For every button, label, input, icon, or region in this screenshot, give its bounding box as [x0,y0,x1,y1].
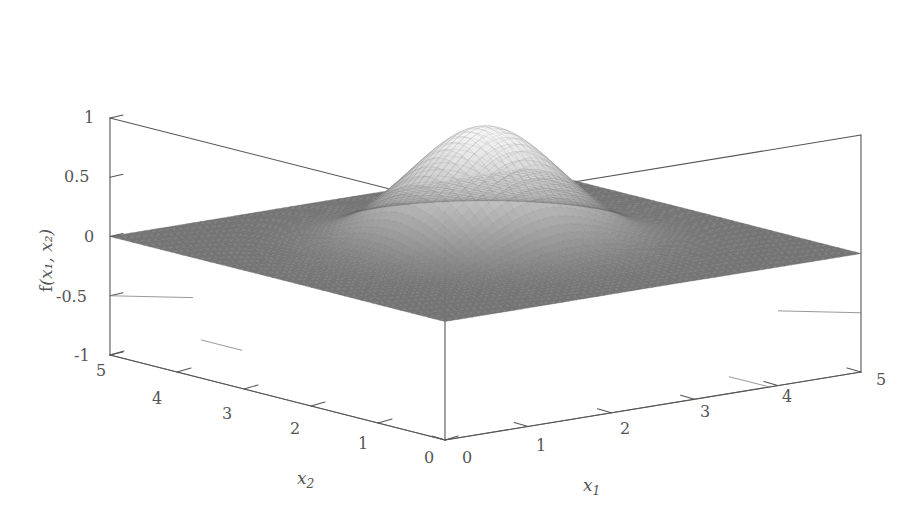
x2-axis-tick-label: 1 [358,436,368,452]
z-axis-tick-label: 0 [84,229,94,245]
x1-axis-tick-label: 4 [782,389,792,405]
x2-axis-title-sub: 2 [307,477,315,491]
x2-axis-tick-label: 2 [290,421,300,437]
x1-axis-tick-label: 1 [536,438,546,454]
axes-frame-front [110,355,861,440]
x2-axis-tick-label: 4 [152,391,162,407]
z-axis-title-fn: f [36,286,56,292]
mesh-surface [110,126,861,322]
z-axis-tick-label: 1 [84,110,94,126]
x1-axis-tick-label: 5 [876,372,886,388]
x1-axis-title: x1 [583,477,600,498]
z-axis-tick-label: 0.5 [64,169,89,185]
x2-axis-title: x2 [297,470,314,491]
x1-axis-tick-label: 3 [700,404,710,420]
surface-plot-figure: f(x₁, x₂) x2 x1 10.50-0.5-1543210012345 [0,0,924,522]
surface-plot-canvas [0,0,924,522]
x2-axis-tick-label: 0 [424,450,434,466]
z-axis-title: f(x₁, x₂) [38,229,55,292]
z-axis-tick-label: -1 [74,348,90,364]
x2-axis-tick-label: 5 [96,363,106,379]
x1-axis-tick-label: 2 [620,421,630,437]
x2-axis-tick-label: 3 [222,406,232,422]
x1-axis-title-base: x [583,475,593,495]
z-axis-tick-label: -0.5 [56,289,87,305]
x1-axis-tick-label: 0 [462,450,472,466]
z-axis-title-args: (x₁, x₂) [36,229,56,286]
x1-axis-title-sub: 1 [593,484,601,498]
x2-axis-title-base: x [297,468,307,488]
